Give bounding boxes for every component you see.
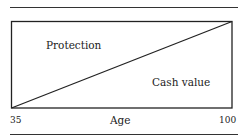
diagonal-divider [12,22,233,109]
region-label-cash-value: Cash value [152,77,210,88]
region-label-protection: Protection [46,40,101,51]
axis-end-label: 100 [219,116,236,125]
axis-title: Age [110,115,131,126]
bottom-rule [10,134,238,135]
axis-start-label: 35 [10,116,21,125]
